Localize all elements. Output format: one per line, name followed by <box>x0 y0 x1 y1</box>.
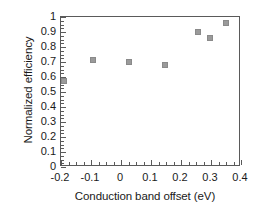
x-axis-minor-tick <box>189 162 190 165</box>
y-axis-tick-labels: 00.10.20.30.40.50.60.70.80.91 <box>28 16 56 166</box>
y-axis-tick <box>61 122 66 123</box>
y-axis-tick-label: 0.6 <box>30 71 56 82</box>
data-point-marker <box>223 20 229 26</box>
y-axis-tick-label: 0.5 <box>30 86 56 97</box>
y-axis-tick-label: 0.2 <box>30 131 56 142</box>
data-point-marker <box>126 59 132 65</box>
x-axis-minor-tick <box>129 162 130 165</box>
y-axis-minor-tick <box>61 103 64 104</box>
y-axis-minor-tick <box>61 51 64 52</box>
x-axis-minor-tick <box>69 162 70 165</box>
x-axis-tick <box>181 160 182 165</box>
y-axis-minor-tick <box>61 145 64 146</box>
x-axis-minor-tick <box>196 162 197 165</box>
x-axis-minor-tick <box>106 162 107 165</box>
x-axis-tick <box>61 160 62 165</box>
y-axis-minor-tick <box>61 21 64 22</box>
y-axis-tick-label: 0.8 <box>30 41 56 52</box>
y-axis-minor-tick <box>61 126 64 127</box>
x-axis-minor-tick <box>159 162 160 165</box>
y-axis-minor-tick <box>61 43 64 44</box>
y-axis-minor-tick <box>61 156 64 157</box>
x-axis-tick-label: 0.4 <box>220 172 259 183</box>
x-axis-tick <box>151 160 152 165</box>
y-axis-tick <box>61 167 66 168</box>
data-point-marker <box>195 29 201 35</box>
y-axis-tick-label: 0 <box>30 161 56 172</box>
x-axis-tick <box>241 160 242 165</box>
x-axis-minor-tick <box>99 162 100 165</box>
y-axis-minor-tick <box>61 118 64 119</box>
y-axis-minor-tick <box>61 111 64 112</box>
x-axis-minor-tick <box>76 162 77 165</box>
y-axis-minor-tick <box>61 73 64 74</box>
plot-area <box>61 17 239 165</box>
x-axis-minor-tick <box>219 162 220 165</box>
x-axis-label: Conduction band offset (eV) <box>40 190 250 202</box>
x-axis-minor-tick <box>174 162 175 165</box>
y-axis-minor-tick <box>61 66 64 67</box>
x-axis-minor-tick <box>166 162 167 165</box>
y-axis-minor-tick <box>61 96 64 97</box>
x-axis-tick-labels: -0.2-0.100.10.20.30.4 <box>60 172 240 186</box>
y-axis-tick <box>61 107 66 108</box>
x-axis-minor-tick <box>234 162 235 165</box>
y-axis-tick-label: 0.7 <box>30 56 56 67</box>
x-axis-minor-tick <box>226 162 227 165</box>
y-axis-minor-tick <box>61 58 64 59</box>
y-axis-minor-tick <box>61 88 64 89</box>
y-axis-minor-tick <box>61 70 64 71</box>
y-axis-minor-tick <box>61 55 64 56</box>
y-axis-minor-tick <box>61 130 64 131</box>
y-axis-tick-label: 0.4 <box>30 101 56 112</box>
x-axis-tick <box>121 160 122 165</box>
y-axis-tick-label: 0.1 <box>30 146 56 157</box>
y-axis-tick <box>61 137 66 138</box>
x-axis-minor-tick <box>114 162 115 165</box>
y-axis-tick <box>61 152 66 153</box>
data-point-marker <box>162 62 168 68</box>
y-axis-minor-tick <box>61 115 64 116</box>
y-axis-minor-tick <box>61 36 64 37</box>
x-axis-tick <box>91 160 92 165</box>
y-axis-minor-tick <box>61 25 64 26</box>
data-point-marker <box>61 78 67 84</box>
y-axis-minor-tick <box>61 28 64 29</box>
x-axis-minor-tick <box>84 162 85 165</box>
y-axis-tick <box>61 47 66 48</box>
data-point-marker <box>90 57 96 63</box>
x-axis-minor-tick <box>136 162 137 165</box>
y-axis-tick <box>61 32 66 33</box>
x-axis-minor-tick <box>144 162 145 165</box>
y-axis-minor-tick <box>61 40 64 41</box>
y-axis-minor-tick <box>61 100 64 101</box>
y-axis-minor-tick <box>61 141 64 142</box>
x-axis-minor-tick <box>204 162 205 165</box>
plot-frame <box>60 16 240 166</box>
chart-figure: Normalized efficiency 00.10.20.30.40.50.… <box>0 0 259 218</box>
y-axis-minor-tick <box>61 85 64 86</box>
y-axis-tick <box>61 17 66 18</box>
data-point-marker <box>207 35 213 41</box>
y-axis-tick-label: 0.3 <box>30 116 56 127</box>
y-axis-minor-tick <box>61 133 64 134</box>
y-axis-tick <box>61 62 66 63</box>
y-axis-tick-label: 0.9 <box>30 26 56 37</box>
y-axis-minor-tick <box>61 148 64 149</box>
y-axis-tick-label: 1 <box>30 11 56 22</box>
y-axis-tick <box>61 92 66 93</box>
x-axis-tick <box>211 160 212 165</box>
